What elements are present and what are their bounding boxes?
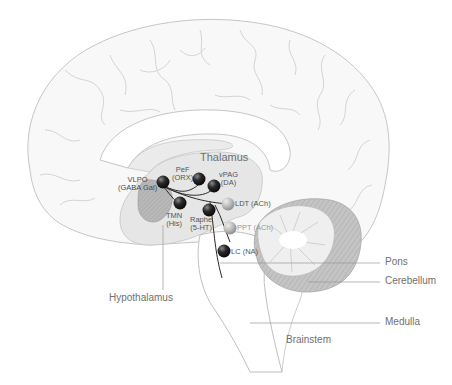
node-vlpo (157, 176, 170, 189)
label-thalamus: Thalamus (200, 152, 248, 164)
label-pef: PeF (ORX) (172, 166, 193, 182)
label-brainstem: Brainstem (286, 335, 331, 346)
node-lc (218, 245, 231, 258)
label-ldt: LDT (ACh) (235, 200, 271, 208)
label-vpag-transmitter: (DA) (219, 179, 238, 187)
label-lc: LC (NA) (231, 248, 258, 256)
label-vpag: vPAG (DA) (219, 171, 238, 187)
label-ppt: PPT (ACh) (237, 224, 273, 232)
label-raphe: Raphe (5-HT) (190, 216, 212, 232)
node-ldt (222, 198, 235, 211)
label-hypothalamus: Hypothalamus (109, 293, 173, 304)
cerebellum (254, 199, 361, 292)
label-tmn: TMN (His) (166, 212, 182, 228)
label-vlpo-transmitter: (GABA Gal) (118, 184, 157, 192)
node-tmn (174, 197, 187, 210)
label-cerebellum: Cerebellum (385, 276, 436, 287)
label-pef-transmitter: (ORX) (172, 174, 193, 182)
label-medulla: Medulla (385, 317, 420, 328)
node-ppt (224, 222, 237, 235)
label-raphe-transmitter: (5-HT) (190, 224, 212, 232)
label-pons: Pons (385, 257, 408, 268)
label-tmn-transmitter: (His) (166, 220, 182, 228)
label-vlpo: VLPO (GABA Gal) (118, 176, 157, 192)
node-pef (193, 173, 206, 186)
